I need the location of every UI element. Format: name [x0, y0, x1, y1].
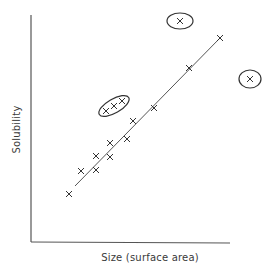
x-axis-label: Size (surface area) — [0, 252, 274, 263]
x-marker — [177, 18, 183, 24]
x-marker — [66, 191, 72, 197]
x-marker — [93, 167, 99, 173]
x-axis — [31, 242, 230, 243]
y-axis-label: Solubility — [11, 100, 22, 160]
x-marker — [93, 153, 99, 159]
trend-line — [75, 38, 220, 186]
x-marker — [78, 168, 84, 174]
x-marker — [247, 76, 253, 82]
x-marker — [124, 136, 130, 142]
x-marker — [217, 35, 223, 41]
x-marker — [107, 140, 113, 146]
x-marker — [111, 103, 117, 109]
x-marker — [130, 118, 136, 124]
x-marker — [119, 98, 125, 104]
data-markers — [66, 18, 253, 197]
x-marker — [107, 154, 113, 160]
outlier-enclosures — [96, 13, 261, 121]
x-marker — [103, 108, 109, 114]
scatter-plot — [0, 0, 274, 268]
